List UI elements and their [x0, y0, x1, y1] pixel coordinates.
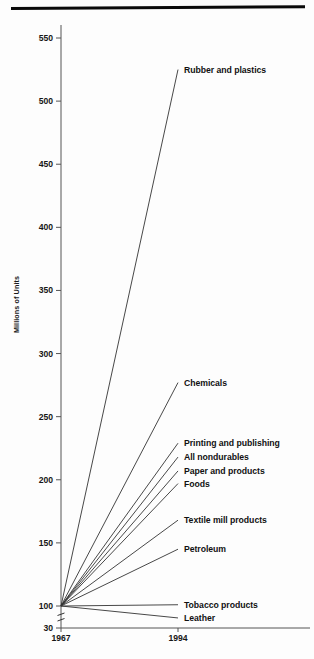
y-axis-tick-label: 30 [43, 623, 53, 633]
series-label: Printing and publishing [184, 438, 280, 448]
series-label: Textile mill products [184, 515, 267, 525]
figure-container: Millions of Units 3010015020025030035040… [0, 0, 314, 659]
y-axis-tick-label: 250 [39, 412, 54, 422]
y-axis-tick-label: 100 [39, 601, 54, 611]
series-label: Rubber and plastics [184, 65, 266, 75]
series-label: Chemicals [184, 378, 227, 388]
series-line [61, 484, 178, 606]
series-label: Foods [184, 479, 210, 489]
series-line [61, 383, 178, 606]
y-axis-tick-label: 300 [39, 349, 54, 359]
y-axis-tick-label: 200 [39, 475, 54, 485]
y-axis-tick-label: 150 [39, 538, 54, 548]
y-axis-tick-label: 500 [39, 96, 54, 106]
series-line [61, 549, 178, 606]
x-axis-tick-label: 1994 [168, 633, 187, 643]
series-label: Paper and products [184, 466, 265, 476]
series-label: Petroleum [184, 544, 226, 554]
x-axis-tick-label: 1967 [51, 633, 70, 643]
y-axis-tick-label: 350 [39, 285, 54, 295]
series-label: Tobacco products [184, 600, 258, 610]
series-line [61, 605, 178, 606]
y-axis-tick-label: 550 [39, 33, 54, 43]
series-line [61, 70, 178, 606]
line-chart-plot: 3010015020025030035040045050055019671994 [0, 0, 314, 659]
series-label: All nondurables [184, 452, 249, 462]
series-line [61, 457, 178, 606]
series-label: Leather [184, 613, 215, 623]
series-line [61, 471, 178, 606]
series-line [61, 520, 178, 606]
y-axis-tick-label: 450 [39, 159, 54, 169]
series-line [61, 606, 178, 618]
y-axis-tick-label: 400 [39, 222, 54, 232]
